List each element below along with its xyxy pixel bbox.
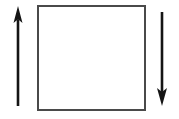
diagram-canvas — [0, 0, 179, 119]
diagram-svg — [0, 0, 179, 119]
up-arrow — [14, 6, 23, 106]
square-outline — [38, 6, 145, 110]
down-arrow — [157, 12, 167, 106]
